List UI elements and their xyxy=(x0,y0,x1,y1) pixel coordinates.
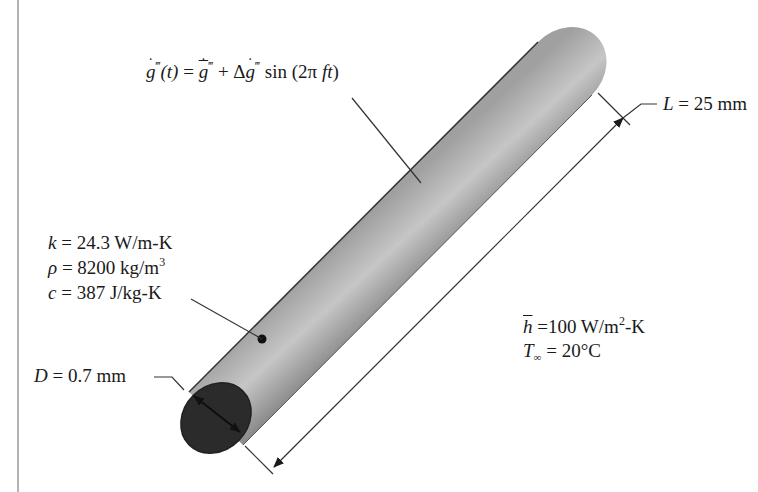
mean-generation-symbol: g xyxy=(199,61,209,83)
rod xyxy=(167,19,615,468)
ambient-temperature: T∞ = 20°C xyxy=(523,340,601,362)
property-k: k = 24.3 W/m-K xyxy=(48,232,172,254)
diameter-leader xyxy=(154,377,184,390)
property-c: c = 387 J/kg-K xyxy=(48,282,162,304)
convection-coefficient: h =100 W/m2-K xyxy=(523,316,645,338)
length-label: L = 25 mm xyxy=(663,93,747,115)
diameter-label: D = 0.7 mm xyxy=(34,365,126,387)
generation-symbol: g xyxy=(146,61,156,83)
properties-leader xyxy=(191,299,262,339)
length-extension-bottom xyxy=(245,446,273,474)
rod-body xyxy=(189,27,607,445)
length-leader xyxy=(623,104,657,118)
length-extension-top xyxy=(598,93,630,125)
generation-leader xyxy=(352,98,421,183)
generation-equation: g‴(t) = g‴ + Δg‴ sin (2π ft) xyxy=(146,61,339,83)
amplitude-symbol: g xyxy=(246,61,256,83)
property-rho: ρ = 8200 kg/m3 xyxy=(48,257,165,279)
